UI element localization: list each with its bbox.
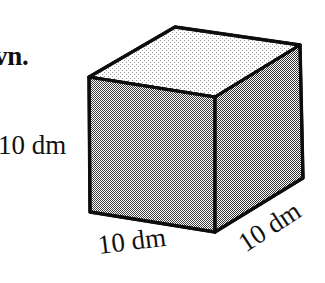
- partial-text-fragment: vn.: [0, 43, 29, 70]
- height-label: 10 dm: [0, 132, 66, 159]
- cube-front-face: [89, 77, 215, 232]
- cube-figure: vn. 10 dm 10 dm 10 dm: [0, 0, 325, 283]
